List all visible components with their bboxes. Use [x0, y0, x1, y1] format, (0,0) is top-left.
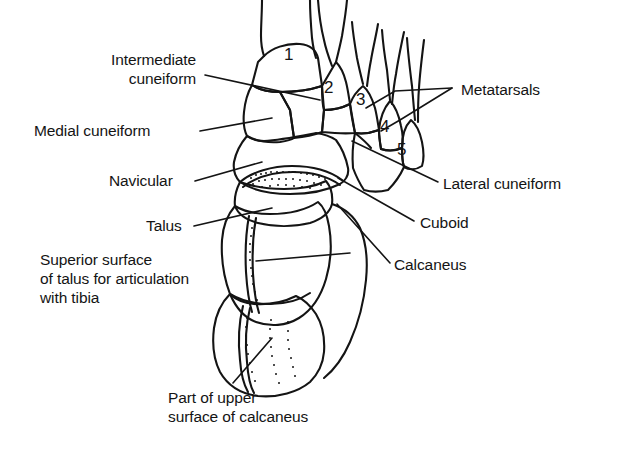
metatarsal-number-5: 5	[397, 140, 406, 160]
metatarsal-number-4: 4	[380, 117, 389, 137]
label-lateral-cuneiform: Lateral cuneiform	[443, 174, 561, 193]
label-calcaneus-text: Calcaneus	[394, 256, 466, 273]
label-intermediate-cuneiform-line2: cuneiform	[129, 70, 196, 87]
metatarsal-number-1-text: 1	[284, 45, 293, 64]
metatarsal-number-4-text: 4	[380, 117, 389, 136]
metatarsal-number-3-text: 3	[356, 90, 365, 109]
label-medial-cuneiform-text: Medial cuneiform	[34, 122, 150, 139]
label-metatarsals-text: Metatarsals	[461, 81, 540, 98]
label-part-of-upper-line1: Part of upper	[168, 389, 256, 406]
label-superior-surface-of-talus: Superior surfaceof talus for articulatio…	[40, 250, 189, 307]
metatarsal-number-5-text: 5	[397, 140, 406, 159]
label-navicular-text: Navicular	[109, 172, 173, 189]
label-medial-cuneiform: Medial cuneiform	[34, 121, 150, 140]
label-talus-text: Talus	[146, 217, 182, 234]
metatarsal-number-3: 3	[356, 90, 365, 110]
label-superior-surface-line2: of talus for articulation	[40, 270, 189, 287]
label-part-of-upper-line2: surface of calcaneus	[168, 408, 308, 425]
label-cuboid-text: Cuboid	[420, 214, 469, 231]
metatarsal-number-1: 1	[284, 45, 293, 65]
metatarsal-number-2-text: 2	[324, 78, 333, 97]
label-intermediate-cuneiform-line1: Intermediate	[111, 51, 196, 68]
label-navicular: Navicular	[109, 171, 173, 190]
label-talus: Talus	[146, 216, 182, 235]
label-intermediate-cuneiform: Intermediatecuneiform	[16, 50, 196, 88]
label-calcaneus: Calcaneus	[394, 255, 466, 274]
label-lateral-cuneiform-text: Lateral cuneiform	[443, 175, 561, 192]
label-cuboid: Cuboid	[420, 213, 469, 232]
label-part-of-upper-surface-of-calcaneus: Part of uppersurface of calcaneus	[168, 388, 308, 426]
label-metatarsals: Metatarsals	[461, 80, 540, 99]
metatarsal-number-2: 2	[324, 78, 333, 98]
label-superior-surface-line3: with tibia	[40, 289, 99, 306]
label-superior-surface-line1: Superior surface	[40, 251, 152, 268]
